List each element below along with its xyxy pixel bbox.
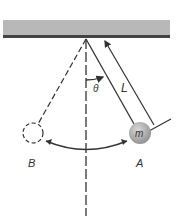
length-label: L [121,81,128,95]
angle-label: θ [93,83,99,94]
string-position-b [38,39,86,124]
pendulum-diagram: θ L B m A [0,0,181,221]
position-b-label: B [28,157,35,169]
bob-position-b [23,123,43,143]
angle-arc-arrow [86,77,103,80]
length-arrow [105,41,154,125]
length-arrow-tail [149,119,171,131]
ceiling [3,20,170,38]
position-a-label: A [135,157,143,169]
mass-label: m [135,128,143,139]
